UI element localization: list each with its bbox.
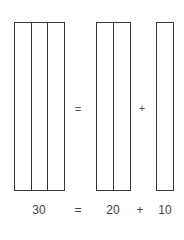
ten-strip <box>32 23 49 190</box>
ten-strip <box>114 23 130 190</box>
ten-strip <box>48 23 64 190</box>
label-10: 10 <box>158 204 171 216</box>
label-equals: = <box>74 204 81 216</box>
label-30: 30 <box>32 204 45 216</box>
tens-strips-group-30 <box>14 22 65 191</box>
equals-sign: = <box>75 104 81 115</box>
tens-strips-group-10 <box>156 22 174 191</box>
label-plus: + <box>136 204 143 216</box>
ten-strip <box>157 23 173 190</box>
ten-strip <box>15 23 32 190</box>
tens-strips-group-20 <box>96 22 131 191</box>
label-20: 20 <box>106 204 119 216</box>
plus-sign: + <box>139 103 145 114</box>
ten-strip <box>97 23 114 190</box>
